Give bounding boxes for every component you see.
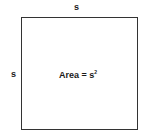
area-formula: Area = s2 (59, 69, 97, 80)
left-side-label: s (11, 69, 16, 79)
top-side-label: s (74, 2, 79, 12)
area-formula-text: Area = s (59, 70, 94, 80)
area-exponent: 2 (94, 69, 97, 75)
